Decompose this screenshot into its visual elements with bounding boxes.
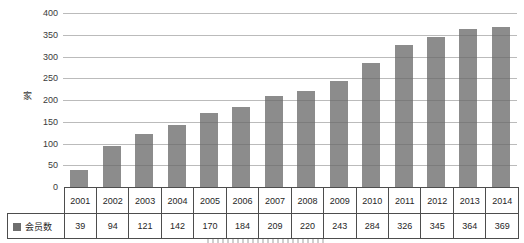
y-tick-label-250: 250 [24, 73, 58, 83]
value-row: 会员数3994121142170184209220243284326345364… [8, 214, 519, 239]
year-header-cell-2005: 2005 [194, 188, 226, 214]
year-header-cell-2014: 2014 [486, 188, 519, 214]
year-header-cell-2001: 2001 [64, 188, 96, 214]
gridline-50 [63, 165, 517, 166]
value-cell-2010: 284 [356, 214, 388, 239]
bar-2005 [200, 113, 218, 187]
gridline-150 [63, 122, 517, 123]
year-header-cell-2013: 2013 [453, 188, 485, 214]
bar-2010 [362, 63, 380, 187]
y-tick-label-150: 150 [24, 117, 58, 127]
bar-2014 [492, 27, 510, 188]
value-cell-2007: 209 [259, 214, 291, 239]
gridline-400 [63, 13, 517, 14]
gridline-350 [63, 35, 517, 36]
table-corner-cell [8, 188, 65, 214]
bar-2001 [70, 170, 88, 187]
gridline-300 [63, 57, 517, 58]
bar-2013 [459, 29, 477, 187]
legend-key-cell: 会员数 [8, 214, 65, 239]
value-cell-2003: 121 [129, 214, 161, 239]
bar-2008 [297, 91, 315, 187]
value-cell-2013: 364 [453, 214, 485, 239]
value-cell-2004: 142 [161, 214, 193, 239]
year-header-cell-2007: 2007 [259, 188, 291, 214]
gridline-100 [63, 144, 517, 145]
year-header-row: 2001200220032004200520062007200820092010… [8, 188, 519, 214]
bar-2002 [103, 146, 121, 187]
value-cell-2014: 369 [486, 214, 519, 239]
legend-marker-icon [13, 223, 21, 231]
bar-2003 [135, 134, 153, 187]
year-header-cell-2012: 2012 [421, 188, 453, 214]
value-cell-2009: 243 [324, 214, 356, 239]
y-tick-label-50: 50 [24, 160, 58, 170]
gridline-200 [63, 100, 517, 101]
year-header-cell-2008: 2008 [291, 188, 323, 214]
legend-label: 会员数 [25, 222, 52, 232]
year-header-cell-2010: 2010 [356, 188, 388, 214]
year-header-cell-2009: 2009 [324, 188, 356, 214]
y-tick-label-350: 350 [24, 30, 58, 40]
y-tick-label-300: 300 [24, 52, 58, 62]
bar-2006 [232, 107, 250, 187]
value-cell-2008: 220 [291, 214, 323, 239]
value-cell-2011: 326 [389, 214, 421, 239]
year-header-cell-2004: 2004 [161, 188, 193, 214]
year-header-cell-2002: 2002 [96, 188, 128, 214]
year-header-cell-2003: 2003 [129, 188, 161, 214]
value-cell-2006: 184 [226, 214, 258, 239]
value-cell-2005: 170 [194, 214, 226, 239]
value-cell-2002: 94 [96, 214, 128, 239]
gridline-250 [63, 78, 517, 79]
cropped-caption-remnant [207, 239, 325, 243]
y-tick-label-100: 100 [24, 139, 58, 149]
bar-2007 [265, 96, 283, 187]
value-cell-2001: 39 [64, 214, 96, 239]
year-header-cell-2006: 2006 [226, 188, 258, 214]
year-header-cell-2011: 2011 [389, 188, 421, 214]
y-tick-label-400: 400 [24, 8, 58, 18]
y-tick-label-200: 200 [24, 95, 58, 105]
plot-area [63, 13, 517, 187]
data-table: 2001200220032004200520062007200820092010… [7, 187, 519, 239]
bar-2009 [330, 81, 348, 187]
value-cell-2012: 345 [421, 214, 453, 239]
bar-2004 [168, 125, 186, 187]
bar-chart-figure: 家 050100150200250300350400 2001200220032… [0, 0, 524, 243]
